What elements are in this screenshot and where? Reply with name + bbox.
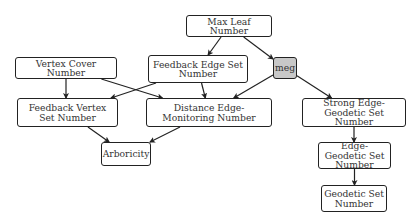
edge-mln-to-meg	[244, 37, 273, 59]
node-mln: Max Leaf Number	[186, 15, 272, 37]
edge-mln-to-fes	[208, 37, 221, 55]
edge-fes-to-dem	[202, 83, 206, 98]
edge-fvs-to-arb	[88, 127, 109, 142]
edge-meg-to-seg	[297, 76, 332, 98]
node-gs: Geodetic Set Number	[321, 185, 387, 212]
edge-dem-to-arb	[150, 127, 180, 142]
node-dem: Distance Edge-Monitoring Number	[146, 98, 272, 127]
node-fvs: Feedback Vertex Set Number	[17, 98, 118, 127]
node-fes: Feedback Edge Set Number	[148, 55, 248, 83]
node-vc: Vertex Cover Number	[15, 57, 117, 79]
node-arb: Arboricity	[101, 142, 151, 166]
node-meg: meg	[273, 57, 297, 79]
node-seg: Strong Edge-Geodetic Set Number	[302, 98, 406, 127]
edge-fes-to-fvs	[111, 83, 156, 98]
node-eg: Edge-Geodetic Set Number	[318, 142, 391, 169]
